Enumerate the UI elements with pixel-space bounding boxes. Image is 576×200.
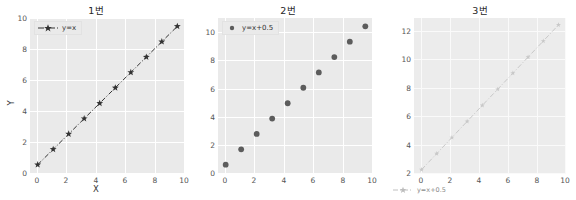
subplot-2-ytick: 2 <box>210 140 215 149</box>
subplot-3-title: 3번 <box>384 3 576 17</box>
subplot-1-xtick: 2 <box>64 176 69 185</box>
subplot-2-ytick: 6 <box>210 84 215 93</box>
subplot-3-xtick: 4 <box>477 176 482 185</box>
subplot-3-legend[interactable]: y=x+0.5 <box>390 184 451 196</box>
subplot-1-xtick: 0 <box>35 176 40 185</box>
subplot-2-ytick: 0 <box>210 169 215 178</box>
subplot-1-ytick: 8 <box>22 45 27 54</box>
subplot-3-xtick: 8 <box>535 176 540 185</box>
subplot-3-ytick: 8 <box>406 83 411 92</box>
subplot-1-legend[interactable]: y=x <box>34 21 82 35</box>
subplot-3-ytick: 6 <box>406 112 411 121</box>
subplot-2-xtick: 0 <box>223 176 228 185</box>
subplot-2-plot-area: 0 2 4 6 8 10 0 2 4 6 8 10 y=x+0.5 <box>218 18 373 173</box>
subplot-1-xtick: 8 <box>153 176 158 185</box>
subplot-3-ytick: 10 <box>401 55 411 64</box>
legend-circle-marker-icon <box>226 24 238 32</box>
subplot-2-data-series <box>218 18 373 173</box>
subplot-1-data-series <box>30 18 185 173</box>
subplot-2-legend-label: y=x+0.5 <box>242 25 273 32</box>
subplot-2-xtick: 10 <box>367 176 377 185</box>
subplot-3-ytick: 12 <box>401 26 411 35</box>
legend-line-marker-icon <box>393 186 413 194</box>
subplot-2-xtick: 2 <box>252 176 257 185</box>
subplot-3-plot-area: 2 4 6 8 10 12 0 2 4 6 8 10 <box>414 18 566 173</box>
subplot-3-data-series <box>414 18 566 173</box>
subplot-1-plot-area: 0 2 4 6 8 10 0 2 4 6 8 10 y=x <box>30 18 185 173</box>
subplot-2-xtick: 6 <box>311 176 316 185</box>
subplot-1-legend-label: y=x <box>62 25 76 32</box>
subplot-1-ytick: 10 <box>17 14 27 23</box>
subplot-3-xtick: 10 <box>560 176 570 185</box>
subplot-2-title: 2번 <box>192 3 384 17</box>
subplot-1-ytick: 6 <box>22 76 27 85</box>
subplot-2-ytick: 8 <box>210 56 215 65</box>
subplot-1-ylabel: Y <box>6 88 16 118</box>
subplot-2-xtick: 4 <box>282 176 287 185</box>
subplot-1-xtick: 10 <box>179 176 189 185</box>
subplot-1-xtick: 6 <box>123 176 128 185</box>
subplot-1-xlabel: X <box>0 184 192 194</box>
subplot-1-ytick: 0 <box>22 169 27 178</box>
subplot-1-title: 1번 <box>0 3 192 17</box>
subplot-1: 1번 Y X 0 2 4 6 8 10 <box>0 0 192 200</box>
subplot-3-legend-label: y=x+0.5 <box>417 187 446 194</box>
subplot-3: 3번 2 4 6 8 10 12 0 2 <box>384 0 576 200</box>
subplot-1-ytick: 2 <box>22 138 27 147</box>
subplot-2: 2번 0 2 4 6 8 10 0 2 <box>192 0 384 200</box>
subplot-2-legend[interactable]: y=x+0.5 <box>222 21 279 35</box>
legend-line-marker-icon <box>38 24 58 32</box>
subplot-1-xtick: 4 <box>94 176 99 185</box>
subplot-2-ytick: 4 <box>210 112 215 121</box>
subplot-2-xtick: 8 <box>341 176 346 185</box>
subplot-1-ytick: 4 <box>22 107 27 116</box>
subplot-3-ytick: 4 <box>406 140 411 149</box>
subplot-2-ytick: 10 <box>205 28 215 37</box>
subplot-3-xtick: 6 <box>506 176 511 185</box>
subplot-3-ytick: 2 <box>406 169 411 178</box>
matplotlib-figure: 1번 Y X 0 2 4 6 8 10 <box>0 0 576 200</box>
